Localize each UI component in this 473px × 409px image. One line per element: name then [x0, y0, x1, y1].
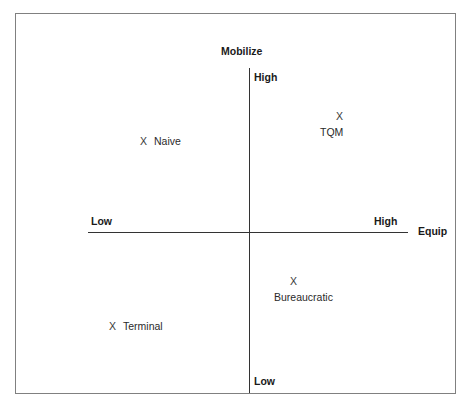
y-axis-low-label: Low [254, 376, 275, 387]
data-point-label: Naive [154, 136, 181, 147]
diagram-canvas: Mobilize High Low Low High Equip X Naive… [0, 0, 473, 409]
x-axis-high-label: High [374, 216, 397, 227]
x-marker-icon: X [336, 111, 343, 122]
y-axis-high-label: High [254, 72, 277, 83]
x-marker-icon: X [109, 321, 116, 332]
horizontal-axis-line [88, 232, 408, 233]
x-axis-low-label: Low [91, 216, 112, 227]
y-axis-title: Mobilize [221, 46, 262, 57]
diagram-frame: Mobilize High Low Low High Equip X Naive… [15, 13, 456, 394]
vertical-axis-line [249, 68, 250, 393]
x-marker-icon: X [140, 136, 147, 147]
data-point-label: Bureaucratic [274, 292, 333, 303]
x-axis-title: Equip [418, 226, 447, 237]
x-marker-icon: X [290, 276, 297, 287]
data-point-label: Terminal [123, 321, 163, 332]
data-point-label: TQM [320, 127, 343, 138]
